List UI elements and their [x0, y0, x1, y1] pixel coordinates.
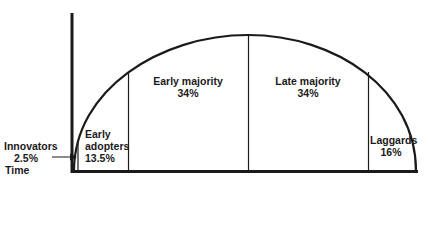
laggards-percent: 16% — [370, 146, 412, 158]
early-majority-name: Early majority — [148, 75, 228, 87]
early-adopters-percent: 13.5% — [85, 152, 129, 164]
innovators-name: Innovators — [4, 140, 48, 152]
early-majority-percent: 34% — [148, 87, 228, 99]
early-adopters-line2: adopters — [85, 140, 129, 152]
innovators-label: Innovators 2.5% — [4, 140, 48, 164]
late-majority-label: Late majority 34% — [268, 75, 348, 99]
laggards-label: Laggards 16% — [370, 134, 412, 158]
early-adopters-line1: Early — [85, 128, 129, 140]
laggards-name: Laggards — [370, 134, 412, 146]
early-adopters-label: Early adopters 13.5% — [85, 128, 129, 164]
late-majority-name: Late majority — [268, 75, 348, 87]
time-label: Time — [5, 164, 29, 176]
innovators-percent: 2.5% — [4, 152, 48, 164]
early-majority-label: Early majority 34% — [148, 75, 228, 99]
late-majority-percent: 34% — [268, 87, 348, 99]
